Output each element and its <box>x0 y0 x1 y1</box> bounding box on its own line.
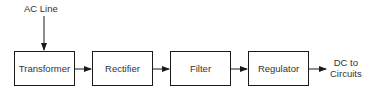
block-label: Filter <box>190 63 211 74</box>
block-regulator: Regulator <box>248 51 309 86</box>
block-transformer: Transformer <box>14 51 75 86</box>
input-label-ac-line: AC Line <box>24 3 58 14</box>
block-filter: Filter <box>170 51 231 86</box>
block-label: Regulator <box>258 63 299 74</box>
block-rectifier: Rectifier <box>92 51 153 86</box>
block-label: Rectifier <box>105 63 140 74</box>
output-label-line1: DC to <box>330 57 362 68</box>
output-label: DC to Circuits <box>330 57 362 79</box>
output-label-line2: Circuits <box>330 68 362 79</box>
block-label: Transformer <box>19 63 70 74</box>
